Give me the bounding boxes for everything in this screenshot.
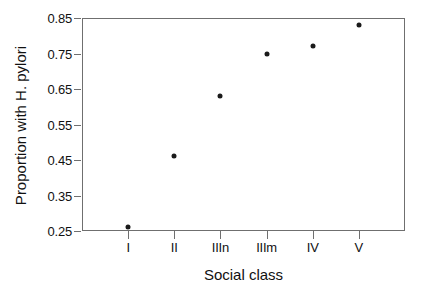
data-point	[172, 154, 177, 159]
data-point	[310, 44, 315, 49]
y-axis-tick	[74, 125, 81, 126]
y-axis-tick-label: 0.65	[26, 82, 72, 97]
y-axis-tick	[74, 160, 81, 161]
data-point	[218, 94, 223, 99]
x-axis-tick	[220, 231, 221, 239]
x-axis-tick-label: II	[171, 240, 178, 255]
y-axis-tick	[74, 231, 81, 232]
y-axis-title: Proportion with H. pylori	[10, 19, 32, 232]
y-axis-tick	[74, 89, 81, 90]
x-axis-tick	[174, 231, 175, 239]
y-axis-tick-label: 0.85	[26, 11, 72, 26]
plot-area	[82, 18, 405, 231]
scatter-plot-figure: 0.850.750.650.550.450.350.25 IIIIIInIIIm…	[0, 0, 422, 301]
x-axis-tick	[359, 231, 360, 239]
x-axis-title: Social class	[82, 266, 405, 283]
y-axis-tick-label: 0.25	[26, 224, 72, 239]
y-axis-tick	[74, 18, 81, 19]
y-axis-tick	[74, 196, 81, 197]
x-axis-tick	[313, 231, 314, 239]
x-axis-tick-label: IIIm	[256, 240, 277, 255]
y-axis-tick-label: 0.35	[26, 188, 72, 203]
x-axis-tick	[128, 231, 129, 239]
y-axis-tick	[74, 54, 81, 55]
x-axis-tick-label: V	[355, 240, 363, 255]
y-axis-tick-label: 0.75	[26, 46, 72, 61]
x-axis-tick-label: IIIn	[212, 240, 229, 255]
y-axis-tick-label: 0.55	[26, 117, 72, 132]
x-axis-tick	[267, 231, 268, 239]
data-point	[126, 225, 131, 230]
data-point	[356, 23, 361, 28]
y-axis-tick-label: 0.45	[26, 153, 72, 168]
data-point	[264, 51, 269, 56]
x-axis-tick-label: IV	[307, 240, 319, 255]
x-axis-tick-label: I	[126, 240, 129, 255]
